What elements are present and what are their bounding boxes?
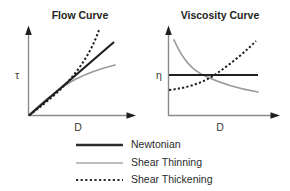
legend-label-newtonian: Newtonian xyxy=(131,138,181,150)
legend-label-shear-thinning: Shear Thinning xyxy=(131,156,202,168)
legend-item-shear-thickening: Shear Thickening xyxy=(76,173,213,185)
viscosity-curve-x-axis xyxy=(169,112,281,119)
flow-curve-x-axis xyxy=(29,112,137,119)
viscosity-curve-y-axis-label: η xyxy=(156,69,162,81)
viscosity-curve-y-axis-arrowhead xyxy=(165,26,172,36)
rheology-figure: Flow Curve τ D Viscosity Curve xyxy=(0,0,290,191)
viscosity-curve-series-shear-thickening xyxy=(169,41,256,90)
flow-curve-title: Flow Curve xyxy=(52,9,109,21)
flow-curve-y-axis xyxy=(25,26,32,117)
panel-flow-curve: Flow Curve τ D xyxy=(15,9,136,133)
flow-curve-y-axis-label: τ xyxy=(15,69,20,81)
flow-curve-x-axis-label: D xyxy=(74,121,82,133)
legend: Newtonian Shear Thinning Shear Thickenin… xyxy=(76,138,213,185)
flow-curve-y-axis-arrowhead xyxy=(25,26,32,36)
panel-viscosity-curve: Viscosity Curve η D xyxy=(156,9,280,133)
flow-curve-x-axis-arrowhead xyxy=(127,112,137,119)
legend-label-shear-thickening: Shear Thickening xyxy=(131,173,213,185)
viscosity-curve-x-axis-arrowhead xyxy=(271,112,281,119)
legend-item-shear-thinning: Shear Thinning xyxy=(76,156,202,168)
figure-root: Flow Curve τ D Viscosity Curve xyxy=(0,0,290,191)
viscosity-curve-series-shear-thinning xyxy=(174,40,258,92)
flow-curve-series-newtonian xyxy=(29,42,114,116)
viscosity-curve-y-axis xyxy=(165,26,172,117)
flow-curve-series-shear-thinning xyxy=(29,65,115,115)
viscosity-curve-title: Viscosity Curve xyxy=(181,9,260,21)
legend-item-newtonian: Newtonian xyxy=(76,138,181,150)
viscosity-curve-x-axis-label: D xyxy=(216,121,224,133)
